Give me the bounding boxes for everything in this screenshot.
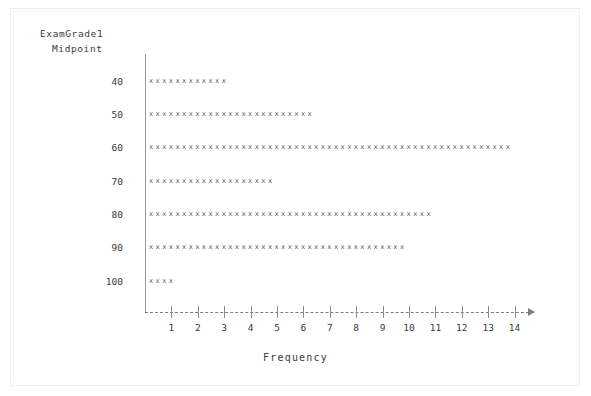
x-axis-tick-label: 10 [403, 322, 414, 333]
dotplot-row: xxxxxxxxxxxxxxxxxxxxxxxxx [149, 111, 314, 118]
y-axis-tick-label: 70 [75, 176, 123, 187]
x-axis-tick [251, 306, 252, 318]
x-axis-tick [515, 306, 516, 318]
x-axis-tick [488, 306, 489, 318]
y-axis-tick-label: 50 [75, 109, 123, 120]
dotplot-row: xxxx [149, 278, 175, 285]
x-axis-tick [330, 306, 331, 318]
x-axis-tick [356, 306, 357, 318]
y-axis-line [145, 54, 146, 312]
dotplot-row: xxxxxxxxxxxx [149, 78, 228, 85]
x-axis-tick-label: 12 [456, 322, 467, 333]
x-axis-tick [277, 306, 278, 318]
x-axis-tick [462, 306, 463, 318]
x-axis-tick-label: 7 [327, 322, 333, 333]
x-axis-tick [435, 306, 436, 318]
x-axis-tick [224, 306, 225, 318]
x-axis-arrow-icon [528, 308, 535, 316]
x-axis-line [145, 312, 534, 313]
x-axis-tick-label: 9 [380, 322, 386, 333]
y-axis-tick-label: 60 [75, 142, 123, 153]
dotplot-row: xxxxxxxxxxxxxxxxxxxxxxxxxxxxxxxxxxxxxxx [149, 244, 406, 251]
x-axis-tick [198, 306, 199, 318]
y-axis-caption-line2: Midpoint [52, 43, 103, 54]
y-axis-tick-label: 90 [75, 242, 123, 253]
x-axis-tick-label: 4 [248, 322, 254, 333]
x-axis-tick [383, 306, 384, 318]
x-axis-tick-label: 1 [169, 322, 175, 333]
y-axis-tick-label: 40 [75, 76, 123, 87]
x-axis-tick-label: 8 [353, 322, 359, 333]
x-axis-tick-label: 2 [195, 322, 201, 333]
x-axis-tick [303, 306, 304, 318]
x-axis-tick-label: 5 [274, 322, 280, 333]
dotplot-row: xxxxxxxxxxxxxxxxxxxxxxxxxxxxxxxxxxxxxxxx… [149, 144, 512, 151]
dotplot-row: xxxxxxxxxxxxxxxxxxxxxxxxxxxxxxxxxxxxxxxx… [149, 211, 433, 218]
x-axis-tick [171, 306, 172, 318]
x-axis-tick [409, 306, 410, 318]
x-axis-tick-label: 3 [221, 322, 227, 333]
x-axis-tick-label: 6 [301, 322, 307, 333]
y-axis-caption-line1: ExamGrade1 [40, 28, 103, 39]
x-axis-tick-label: 13 [482, 322, 493, 333]
dotplot-row: xxxxxxxxxxxxxxxxxxx [149, 178, 274, 185]
x-axis-tick-label: 14 [509, 322, 520, 333]
y-axis-tick-label: 80 [75, 209, 123, 220]
y-axis-tick-label: 100 [75, 276, 123, 287]
dotplot-figure: ExamGrade1 Midpoint 1234567891011121314 … [0, 0, 591, 396]
x-axis-tick-label: 11 [430, 322, 441, 333]
x-axis-title: Frequency [0, 352, 591, 363]
